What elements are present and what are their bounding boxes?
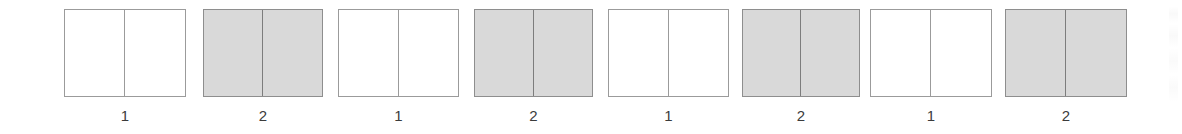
stimulus-item: 1 bbox=[338, 0, 459, 134]
rectangle-left-half bbox=[609, 10, 669, 96]
stimulus-label: 1 bbox=[338, 107, 459, 125]
stimulus-item: 1 bbox=[870, 0, 992, 134]
stimulus-label: 1 bbox=[608, 107, 729, 125]
stimulus-item: 2 bbox=[474, 0, 593, 134]
rectangle-right-half bbox=[801, 10, 859, 96]
stimulus-item: 1 bbox=[64, 0, 186, 134]
split-rectangle bbox=[64, 9, 186, 97]
rectangle-right-half bbox=[669, 10, 729, 96]
split-rectangle bbox=[870, 9, 992, 97]
split-rectangle bbox=[338, 9, 459, 97]
rectangle-right-half bbox=[125, 10, 185, 96]
rectangle-right-half bbox=[931, 10, 991, 96]
split-rectangle bbox=[474, 9, 593, 97]
stimulus-label: 1 bbox=[64, 107, 186, 125]
rectangle-left-half bbox=[871, 10, 931, 96]
stimulus-figure: 12121212 bbox=[0, 0, 1182, 134]
stimulus-item: 1 bbox=[608, 0, 729, 134]
rectangle-left-half bbox=[204, 10, 263, 96]
stimulus-label: 2 bbox=[474, 107, 593, 125]
split-rectangle bbox=[742, 9, 860, 97]
rectangle-right-half bbox=[534, 10, 593, 96]
stimulus-label: 1 bbox=[870, 107, 992, 125]
rectangle-left-half bbox=[65, 10, 125, 96]
stimulus-item: 2 bbox=[1005, 0, 1127, 134]
rectangle-right-half bbox=[263, 10, 322, 96]
stimulus-label: 2 bbox=[1005, 107, 1127, 125]
stimulus-label: 2 bbox=[203, 107, 323, 125]
stimulus-label: 2 bbox=[742, 107, 860, 125]
rectangle-right-half bbox=[399, 10, 459, 96]
rectangle-left-half bbox=[743, 10, 801, 96]
stimulus-item: 2 bbox=[742, 0, 860, 134]
split-rectangle bbox=[203, 9, 323, 97]
rectangle-left-half bbox=[475, 10, 534, 96]
stimulus-item: 2 bbox=[203, 0, 323, 134]
split-rectangle bbox=[1005, 9, 1127, 97]
split-rectangle bbox=[608, 9, 729, 97]
rectangle-left-half bbox=[339, 10, 399, 96]
rectangle-right-half bbox=[1066, 10, 1126, 96]
scan-artifact bbox=[1169, 6, 1178, 116]
rectangle-left-half bbox=[1006, 10, 1066, 96]
